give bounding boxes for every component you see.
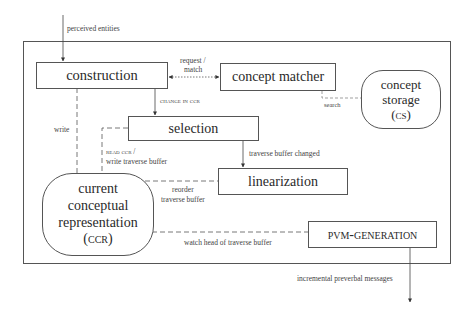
selection-label: selection — [169, 121, 219, 137]
pvm-generation-box: pvm-generation — [308, 221, 437, 248]
concept-storage-line-2: storage — [382, 92, 420, 107]
label-request-match-2: match — [184, 65, 202, 74]
ccr-box: current conceptual representation (ccr) — [42, 173, 154, 256]
concept-matcher-label: concept matcher — [232, 69, 324, 85]
construction-label: construction — [66, 67, 138, 84]
ccr-line-4: (ccr) — [83, 231, 112, 248]
selection-box: selection — [128, 116, 259, 141]
label-request-match-1: request / — [180, 56, 206, 65]
label-reorder-2: traverse buffer — [161, 195, 205, 204]
label-reorder-1: reorder — [172, 185, 194, 194]
label-read-ccr-1: read ccr / — [106, 147, 135, 156]
linearization-label: linearization — [248, 174, 318, 190]
label-change-in-ccr-text: change in ccr — [160, 96, 200, 105]
linearization-box: linearization — [218, 168, 348, 195]
label-change-in-ccr: change in ccr — [160, 96, 200, 105]
label-watch-head: watch head of traverse buffer — [184, 238, 272, 247]
label-write: write — [54, 125, 69, 134]
concept-matcher-box: concept matcher — [220, 63, 336, 91]
label-incremental-messages: incremental preverbal messages — [297, 274, 393, 283]
construction-box: construction — [36, 62, 168, 89]
concept-storage-box: concept storage (cs) — [361, 70, 441, 129]
label-search: search — [324, 101, 341, 109]
pvm-generation-label: pvm-generation — [328, 227, 418, 243]
label-read-ccr-2: write traverse buffer — [106, 157, 167, 166]
diagram-canvas — [0, 0, 474, 311]
ccr-line-2: conceptual — [68, 198, 129, 215]
label-read-ccr-1-text: read ccr / — [106, 147, 135, 156]
concept-storage-line-3: (cs) — [391, 107, 411, 122]
concept-storage-line-1: concept — [381, 77, 421, 92]
label-traverse-buffer-changed: traverse buffer changed — [249, 149, 320, 158]
ccr-line-1: current — [78, 181, 118, 198]
ccr-line-3: representation — [58, 215, 137, 232]
label-perceived-entities: perceived entities — [67, 24, 120, 33]
edge-search — [322, 91, 362, 98]
